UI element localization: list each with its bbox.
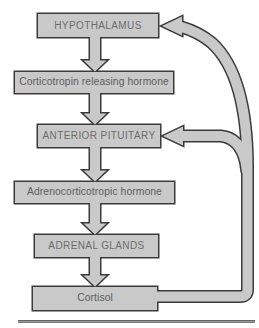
box-cortisol-label: Cortisol <box>33 287 157 310</box>
hpa-axis-diagram: HYPOTHALAMUS Corticotropin releasing hor… <box>0 0 259 328</box>
down-arrow-3-fill <box>84 145 107 182</box>
box-crh-label: Corticotropin releasing hormone <box>15 72 173 93</box>
down-arrow-4-fill <box>84 201 107 235</box>
down-arrow-5-fill <box>84 255 107 287</box>
feedback-arrowhead-hypothalamus-fill <box>162 17 182 36</box>
box-acth-label: Adrenocorticotropic hormone <box>15 182 174 203</box>
box-hypothalamus-label: HYPOTHALAMUS <box>38 14 158 37</box>
box-anterior-pituitary-label: ANTERIOR PITUITARY <box>38 125 160 147</box>
box-adrenal-glands-label: ADRENAL GLANDS <box>35 235 158 257</box>
feedback-band-to-hypothalamus-fill <box>152 27 248 297</box>
fill-layer <box>15 14 248 310</box>
bottom-divider-rule <box>18 320 255 323</box>
outline-layer <box>15 14 248 310</box>
down-arrow-2-fill <box>84 91 107 125</box>
down-arrow-1-fill <box>84 35 107 72</box>
diagram-shapes-graphic <box>0 0 259 328</box>
